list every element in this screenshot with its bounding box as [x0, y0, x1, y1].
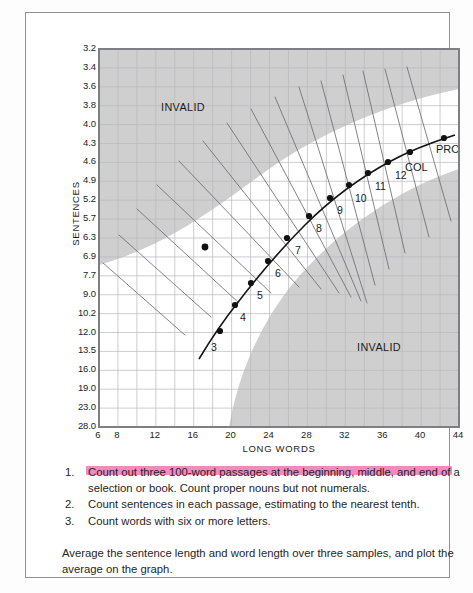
dot-grade-7 [284, 235, 290, 241]
fry-readability-graph: SENTENCES 3.23.43.63.84.04.34.64.95.25.7… [54, 33, 469, 458]
y-tick-7.7: 7.7 [62, 270, 96, 280]
x-axis-tick-labels: 68121620242832364044 [98, 430, 460, 444]
label-grade-3: 3 [211, 341, 217, 353]
y-tick-5.7: 5.7 [62, 213, 96, 223]
x-axis-title: LONG WORDS [98, 443, 460, 454]
invalid-region-bottom [229, 169, 459, 427]
instruction-item-1: 1. Count out three 100-word passages at … [62, 465, 466, 496]
x-tick-40: 40 [410, 430, 430, 440]
x-tick-32: 32 [334, 430, 354, 440]
page-frame: SENTENCES 3.23.43.63.84.04.34.64.95.25.7… [25, 12, 450, 578]
label-grade-10: 10 [355, 192, 367, 204]
plotted-sample-point [202, 244, 209, 251]
y-tick-23.0: 23.0 [62, 402, 96, 412]
dot-grade-4 [232, 302, 238, 308]
instruction-item-3: 3. Count words with six or more letters. [62, 514, 466, 530]
dot-grade-8 [306, 213, 312, 219]
y-tick-13.5: 13.5 [62, 345, 96, 355]
instruction-number: 2. [65, 497, 83, 513]
y-tick-5.2: 5.2 [62, 194, 96, 204]
y-tick-3.2: 3.2 [62, 43, 96, 53]
x-tick-6: 6 [88, 430, 108, 440]
instruction-text: Count words with six or more letters. [88, 514, 466, 530]
scanned-page: SENTENCES 3.23.43.63.84.04.34.64.95.25.7… [0, 0, 473, 593]
y-tick-4.9: 4.9 [62, 175, 96, 185]
y-tick-3.8: 3.8 [62, 100, 96, 110]
dot-grade-10 [346, 182, 352, 188]
y-tick-9.0: 9.0 [62, 289, 96, 299]
dot-grade-12 [385, 159, 391, 165]
y-axis-tick-labels: 3.23.43.63.84.04.34.64.95.25.76.36.97.79… [56, 48, 96, 428]
x-tick-28: 28 [296, 430, 316, 440]
x-tick-12: 12 [145, 430, 165, 440]
y-tick-10.2: 10.2 [62, 308, 96, 318]
instruction-text: Count sentences in each passage, estimat… [88, 497, 466, 513]
label-grade-5: 5 [257, 289, 263, 301]
dot-grade-11 [365, 170, 371, 176]
x-tick-8: 8 [107, 430, 127, 440]
x-tick-16: 16 [183, 430, 203, 440]
instruction-number: 3. [65, 514, 83, 530]
summary-text: Average the sentence length and word len… [62, 546, 466, 577]
y-tick-16.0: 16.0 [62, 364, 96, 374]
y-tick-4.0: 4.0 [62, 119, 96, 129]
dot-grade-prof [441, 135, 447, 141]
label-invalid-bottom: INVALID [357, 341, 401, 353]
y-tick-6.9: 6.9 [62, 251, 96, 261]
instruction-item-2: 2. Count sentences in each passage, esti… [62, 497, 466, 513]
y-tick-4.6: 4.6 [62, 156, 96, 166]
label-grade-9: 9 [337, 204, 343, 216]
label-grade-4: 4 [240, 311, 246, 323]
y-tick-3.4: 3.4 [62, 62, 96, 72]
y-tick-3.6: 3.6 [62, 81, 96, 91]
instruction-number: 1. [65, 465, 83, 481]
dot-grade-5 [248, 280, 254, 286]
dot-grade-9 [327, 195, 333, 201]
y-tick-19.0: 19.0 [62, 383, 96, 393]
y-tick-6.3: 6.3 [62, 232, 96, 242]
label-grade-6: 6 [275, 267, 281, 279]
label-grade-8: 8 [316, 222, 322, 234]
dot-grade-col [407, 149, 413, 155]
plot-area[interactable]: 3 4 5 6 7 8 9 10 11 12 COL PROF [98, 48, 460, 428]
dot-grade-6 [265, 258, 271, 264]
label-grade-7: 7 [295, 244, 301, 256]
instructions-list: 1. Count out three 100-word passages at … [62, 465, 466, 530]
x-tick-20: 20 [221, 430, 241, 440]
y-tick-12.0: 12.0 [62, 327, 96, 337]
plot-svg: 3 4 5 6 7 8 9 10 11 12 COL PROF [99, 49, 459, 427]
instruction-text: Count out three 100-word passages at the… [88, 465, 466, 496]
x-tick-36: 36 [372, 430, 392, 440]
x-tick-24: 24 [259, 430, 279, 440]
x-tick-44: 44 [448, 430, 468, 440]
label-grade-11: 11 [375, 180, 386, 192]
label-col: COL [405, 161, 428, 173]
dot-grade-3 [217, 328, 223, 334]
label-invalid-top: INVALID [161, 101, 205, 113]
label-prof: PROF [436, 143, 459, 155]
y-tick-4.3: 4.3 [62, 138, 96, 148]
